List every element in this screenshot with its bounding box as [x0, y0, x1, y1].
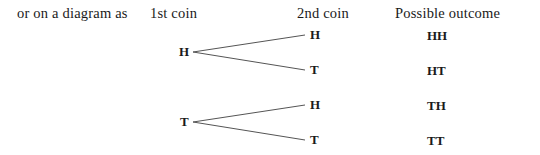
first-coin-node-t: T	[180, 115, 189, 129]
branch-h-h	[193, 35, 305, 52]
second-coin-node-ht: T	[310, 63, 319, 77]
second-coin-node-tt: T	[310, 133, 319, 147]
second-coin-node-hh: H	[310, 28, 320, 42]
tree-branches	[0, 0, 540, 155]
branch-t-h	[193, 105, 305, 122]
first-coin-node-h: H	[179, 45, 189, 59]
branch-t-t	[193, 122, 305, 140]
outcome-ht: HT	[427, 64, 446, 78]
outcome-hh: HH	[427, 29, 447, 43]
outcome-th: TH	[427, 99, 446, 113]
branch-h-t	[193, 52, 305, 70]
second-coin-node-th: H	[310, 98, 320, 112]
outcome-tt: TT	[427, 134, 444, 148]
